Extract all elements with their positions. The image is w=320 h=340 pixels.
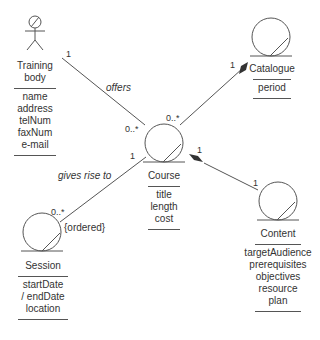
multiplicity: 0..* (166, 113, 180, 123)
multiplicity: 1 (197, 145, 202, 155)
divider (255, 311, 301, 312)
attribute: e-mail (14, 139, 56, 151)
attribute: address (14, 103, 56, 115)
class-training-body: Training body name address telNum faxNum… (14, 60, 56, 158)
offers-association-line (62, 58, 145, 125)
attribute: cost (142, 213, 186, 225)
attribute: location (18, 303, 68, 315)
entity-icon (250, 18, 292, 56)
attribute: / endDate (18, 291, 68, 303)
divider (148, 229, 180, 230)
multiplicity: 0..* (125, 124, 139, 134)
attribute: faxNum (14, 127, 56, 139)
class-name: Training (14, 60, 56, 72)
attribute: period (246, 82, 298, 94)
divider (253, 79, 291, 80)
multiplicity: 0..* (51, 207, 65, 217)
attribute: plan (240, 295, 316, 307)
attribute: length (142, 201, 186, 213)
constraint-ordered: {ordered} (64, 222, 105, 234)
class-name: Session (18, 260, 68, 272)
multiplicity: 1 (130, 151, 135, 161)
class-session: Session startDate / endDate location (18, 260, 68, 322)
divider (18, 276, 68, 277)
association-label-offers: offers (106, 82, 131, 94)
catalogue-course-association-line (180, 68, 243, 125)
gives-rise-to-association-line (60, 157, 146, 222)
divider (18, 319, 68, 320)
actor-icon (25, 16, 45, 50)
multiplicity: 1 (66, 49, 71, 59)
class-name: Content (240, 228, 316, 240)
class-name: Course (142, 170, 186, 182)
divider (14, 88, 56, 89)
attribute: targetAudience (240, 247, 316, 259)
attribute: objectives (240, 271, 316, 283)
course-content-association-line (204, 163, 258, 190)
entity-icon (257, 182, 299, 220)
divider (253, 98, 291, 99)
attribute: telNum (14, 115, 56, 127)
association-label-gives-rise-to: gives rise to (58, 170, 111, 182)
attribute: resource (240, 283, 316, 295)
attribute: name (14, 91, 56, 103)
attribute: prerequisites (240, 259, 316, 271)
class-name: Catalogue (246, 63, 298, 75)
entity-icon (21, 213, 63, 251)
class-catalogue: Catalogue period (246, 63, 298, 101)
attribute: title (142, 189, 186, 201)
multiplicity: 1 (230, 60, 235, 70)
multiplicity: 1 (253, 178, 258, 188)
entity-icon (143, 124, 185, 162)
class-name: body (14, 72, 56, 84)
class-content: Content targetAudience prerequisites obj… (240, 228, 316, 314)
class-course: Course title length cost (142, 170, 186, 232)
aggregation-diamond-icon (189, 154, 203, 162)
attribute: startDate (18, 279, 68, 291)
divider (14, 155, 56, 156)
divider (148, 186, 180, 187)
divider (255, 244, 301, 245)
